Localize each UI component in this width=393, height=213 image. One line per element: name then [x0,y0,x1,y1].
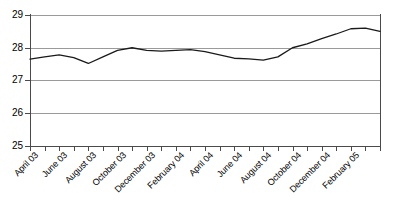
y-tick-mark [25,80,30,81]
gridline-29 [30,15,380,16]
line-chart: 29 28 27 26 25 April 03June 03August 03O… [0,0,393,213]
x-tick-mark [220,147,221,151]
x-tick-mark [365,147,366,151]
plot-right-border [380,14,381,147]
x-tick-mark [147,147,148,151]
x-tick-mark [278,147,279,151]
gridline-27 [30,80,380,81]
gridline-28 [30,48,380,49]
x-tick-mark [45,147,46,151]
x-tick-mark [161,147,162,151]
x-tick-mark [293,147,294,151]
x-tick-mark [380,147,381,151]
x-tick-mark [307,147,308,151]
y-tick-mark [25,15,30,16]
x-tick-mark [190,147,191,151]
x-tick-mark [74,147,75,151]
gridline-26 [30,113,380,114]
y-tick-label-27: 27 [1,75,23,85]
x-tick-mark [132,147,133,151]
x-tick-mark [322,147,323,151]
y-tick-label-29: 29 [1,10,23,20]
y-tick-label-25: 25 [1,141,23,151]
x-tick-mark [336,147,337,151]
y-axis-line [30,14,31,147]
x-tick-mark [118,147,119,151]
x-tick-label: April 04 [187,150,215,178]
y-tick-label-26: 26 [1,108,23,118]
x-tick-label: April 03 [12,150,40,178]
y-tick-mark [25,113,30,114]
x-tick-mark [249,147,250,151]
y-tick-mark [25,48,30,49]
y-tick-label-28: 28 [1,43,23,53]
data-series-line [30,28,380,63]
x-tick-mark [103,147,104,151]
